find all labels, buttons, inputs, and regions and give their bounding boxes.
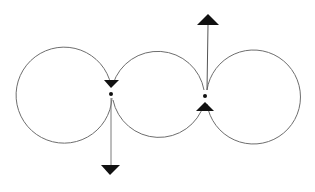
right-circle (207, 50, 300, 144)
diagram-canvas (0, 0, 315, 192)
up-vector-arrowhead-icon (197, 14, 219, 25)
left-circle (16, 47, 112, 143)
middle-circle-bottom-arc (113, 100, 204, 137)
middle-circle-top-arc (113, 51, 204, 90)
left-junction-dot (109, 92, 113, 96)
tangent-circles-diagram (0, 0, 315, 192)
right-junction-dot (203, 94, 207, 98)
down-arrowhead-icon (104, 80, 119, 88)
up-arrowhead-icon (196, 102, 214, 111)
up-vector-line (207, 25, 208, 90)
down-vector-arrowhead-icon (101, 165, 120, 175)
